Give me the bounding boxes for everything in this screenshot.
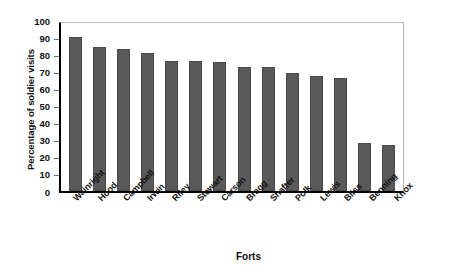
bar [286, 73, 299, 191]
y-tick-label: 30 [39, 135, 50, 147]
y-tick-label: 20 [39, 152, 50, 164]
plot-area [59, 22, 404, 193]
bar [189, 61, 202, 191]
y-tick-label: 80 [39, 50, 50, 62]
bar [262, 67, 275, 191]
bar [310, 76, 323, 191]
y-tick-label: 0 [45, 187, 50, 199]
y-tick-label: 60 [39, 84, 50, 96]
bar [117, 49, 130, 191]
y-tick-label: 50 [39, 101, 50, 113]
bar [238, 67, 251, 191]
bar [213, 62, 226, 191]
bar [334, 78, 347, 191]
x-axis-title: Forts [0, 251, 461, 262]
bar-series [61, 23, 403, 191]
y-tick-label: 10 [39, 169, 50, 181]
bar-chart: Percentage of soldier visits 01020304050… [0, 0, 461, 275]
y-tick-label: 70 [39, 67, 50, 79]
y-axis-ticks: 0102030405060708090100 [0, 0, 59, 215]
bar [165, 61, 178, 191]
y-tick-label: 100 [34, 16, 50, 28]
bar [69, 37, 82, 191]
x-axis-tick-labels: WainrightHoodCampbellIrwinRileyStewartCa… [59, 193, 404, 253]
y-tick-label: 40 [39, 118, 50, 130]
y-tick-label: 90 [39, 33, 50, 45]
